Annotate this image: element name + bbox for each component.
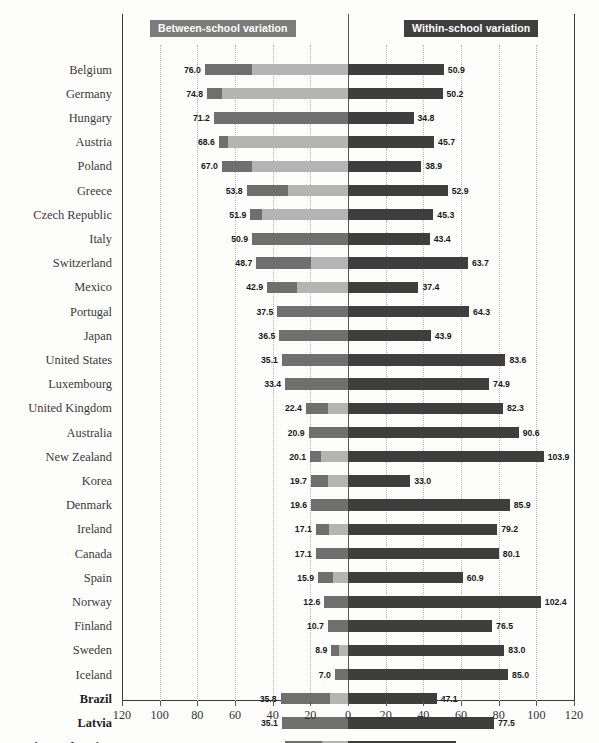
country-label: Spain [0, 566, 112, 590]
within-school-value: 80.1 [503, 547, 543, 561]
axis-tick-label: 40 [253, 708, 293, 723]
bar-within-school [348, 427, 519, 439]
country-label: Luxembourg [0, 372, 112, 396]
bar-between-school-dark [331, 645, 339, 657]
bar-between-school-dark [285, 378, 348, 390]
within-school-value: 102.4 [545, 595, 585, 609]
bar-between-school-light [339, 645, 348, 657]
country-label: Germany [0, 82, 112, 106]
chart-row: United States35.183.6 [0, 348, 599, 372]
between-school-value: 42.9 [223, 280, 263, 294]
bar-between-school-dark [277, 306, 348, 318]
between-school-value: 76.0 [161, 63, 201, 77]
country-label: Austria [0, 130, 112, 154]
chart-row: Norway12.6102.4 [0, 590, 599, 614]
chart-row: Denmark19.685.9 [0, 493, 599, 517]
bar-between-school-light [329, 524, 348, 536]
bar-between-school-dark [219, 136, 228, 148]
chart-row: Italy50.943.4 [0, 227, 599, 251]
between-school-value: 22.4 [262, 401, 302, 415]
within-school-value: 50.2 [447, 87, 487, 101]
within-school-value: 33.0 [414, 474, 454, 488]
bar-between-school-dark [267, 282, 297, 294]
country-label: Greece [0, 179, 112, 203]
between-school-value: 68.6 [175, 135, 215, 149]
axis-tick-label: 20 [366, 708, 406, 723]
country-label: Russian Federation [0, 735, 112, 743]
axis-tick [461, 701, 462, 706]
between-school-value: 50.9 [208, 232, 248, 246]
chart-row: Russian Federation33.657.1 [0, 735, 599, 743]
axis-tick-label: 120 [554, 708, 594, 723]
bar-within-school [348, 112, 414, 124]
within-school-value: 82.3 [507, 401, 547, 415]
axis-tick [122, 701, 123, 706]
between-school-value: 51.9 [206, 208, 246, 222]
between-school-value: 10.7 [284, 619, 324, 633]
country-label: New Zealand [0, 445, 112, 469]
within-school-value: 85.9 [514, 498, 554, 512]
bar-between-school-dark [316, 548, 348, 560]
bar-between-school-dark [222, 161, 252, 173]
bar-between-school-dark [282, 354, 348, 366]
axis-tick-label: 120 [102, 708, 142, 723]
bar-within-school [348, 257, 468, 269]
bar-between-school-dark [318, 572, 333, 584]
bar-between-school-dark [256, 257, 311, 269]
bar-between-school-dark [214, 112, 348, 124]
bar-between-school-dark [205, 64, 252, 76]
between-school-value: 20.9 [265, 426, 305, 440]
bar-within-school [348, 88, 443, 100]
bar-within-school [348, 282, 418, 294]
within-school-value: 43.9 [435, 329, 475, 343]
country-label: Switzerland [0, 251, 112, 275]
axis-tick [499, 701, 500, 706]
within-school-value: 79.2 [501, 522, 541, 536]
country-label: Iceland [0, 663, 112, 687]
bar-within-school [348, 306, 469, 318]
bar-between-school-dark [279, 330, 348, 342]
axis-tick-marks [0, 701, 599, 707]
bar-between-school-dark [250, 209, 261, 221]
country-label: United States [0, 348, 112, 372]
country-label: Italy [0, 227, 112, 251]
bar-between-school-light [328, 475, 348, 487]
between-school-value: 35.1 [238, 353, 278, 367]
within-school-value: 103.9 [548, 450, 588, 464]
chart-page: Between-school variation Within-school v… [0, 0, 599, 743]
axis-tick-label: 0 [328, 708, 368, 723]
bar-between-school-light [321, 451, 348, 463]
between-school-value: 48.7 [212, 256, 252, 270]
axis-tick [423, 701, 424, 706]
axis-tick [235, 701, 236, 706]
within-school-value: 63.7 [472, 256, 512, 270]
within-school-value: 76.5 [496, 619, 536, 633]
within-school-value: 83.6 [509, 353, 549, 367]
chart-row: Mexico42.937.4 [0, 275, 599, 299]
between-school-value: 19.6 [267, 498, 307, 512]
bar-within-school [348, 136, 434, 148]
bar-between-school-light [228, 136, 348, 148]
bar-between-school-light [328, 403, 348, 415]
within-school-value: 38.9 [425, 159, 465, 173]
axis-tick-labels: 12010080604020020406080100120 [0, 708, 599, 728]
within-school-value: 43.4 [434, 232, 474, 246]
chart-row: Austria68.645.7 [0, 130, 599, 154]
bar-between-school-light [297, 282, 348, 294]
bar-within-school [348, 669, 508, 681]
bar-within-school [348, 499, 510, 511]
axis-tick-label: 100 [140, 708, 180, 723]
bar-between-school-dark [328, 620, 348, 632]
bar-between-school-dark [306, 403, 329, 415]
axis-tick-label: 100 [516, 708, 556, 723]
within-school-value: 64.3 [473, 305, 513, 319]
chart-row: Portugal37.564.3 [0, 300, 599, 324]
chart-row: Hungary71.234.8 [0, 106, 599, 130]
bar-within-school [348, 378, 489, 390]
chart-row: Poland67.038.9 [0, 154, 599, 178]
bar-within-school [348, 161, 421, 173]
within-school-value: 74.9 [493, 377, 533, 391]
axis-tick [536, 701, 537, 706]
chart-row: Sweden8.983.0 [0, 638, 599, 662]
between-school-value: 17.1 [272, 547, 312, 561]
